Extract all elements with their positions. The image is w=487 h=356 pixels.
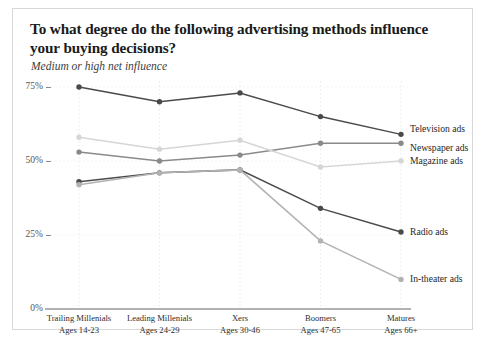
- data-point: [398, 132, 403, 137]
- data-point: [237, 138, 242, 143]
- y-axis-tick-label: 75%: [13, 81, 43, 91]
- data-point: [318, 206, 323, 211]
- series-label-magazine-ads: Magazine ads: [410, 155, 463, 166]
- data-point: [237, 152, 242, 157]
- series-line-radio-ads: [79, 170, 401, 232]
- data-point: [318, 238, 323, 243]
- y-axis-tick-mark: [46, 87, 51, 88]
- x-axis-category-label: Matures: [351, 313, 451, 325]
- data-point: [398, 158, 403, 163]
- y-axis-tick-label: 0%: [13, 303, 43, 313]
- y-axis-tick-mark: [46, 161, 51, 162]
- y-axis-tick-label: 25%: [13, 229, 43, 239]
- data-point: [76, 149, 81, 154]
- series-label-radio-ads: Radio ads: [410, 226, 448, 237]
- data-point: [76, 182, 81, 187]
- data-point: [157, 99, 162, 104]
- y-axis-tick-label: 50%: [13, 155, 43, 165]
- line-chart-svg: [13, 9, 474, 331]
- data-point: [76, 135, 81, 140]
- data-point: [237, 167, 242, 172]
- data-point: [318, 164, 323, 169]
- x-axis-tick-group: MaturesAges 66+: [351, 313, 451, 336]
- series-label-newspaper-ads: Newspaper ads: [410, 142, 468, 153]
- data-point: [318, 141, 323, 146]
- data-point: [398, 141, 403, 146]
- data-point: [237, 90, 242, 95]
- data-point: [398, 277, 403, 282]
- data-point: [76, 84, 81, 89]
- y-axis-tick-mark: [46, 235, 51, 236]
- data-point: [318, 114, 323, 119]
- x-axis-age-label: Ages 66+: [351, 325, 451, 337]
- data-point: [157, 170, 162, 175]
- series-label-television-ads: Television ads: [410, 123, 465, 134]
- series-label-in-theater-ads: In-theater ads: [410, 273, 462, 284]
- chart-card: To what degree do the following advertis…: [12, 8, 473, 330]
- data-point: [157, 146, 162, 151]
- data-point: [157, 158, 162, 163]
- data-point: [398, 229, 403, 234]
